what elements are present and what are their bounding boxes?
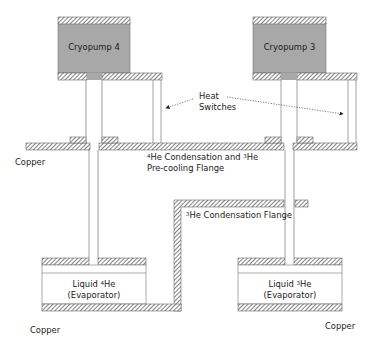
he3-evaporator-base: [238, 304, 342, 311]
seal-block: [70, 137, 86, 143]
upper-flange-label-line1: 4He Condensation and 3He: [147, 152, 258, 163]
seal-block: [102, 137, 118, 143]
heat-switches-label-line2: Switches: [199, 102, 236, 113]
upper-flange-left-segment: [26, 143, 90, 150]
pump-4-tube: [86, 80, 102, 258]
cryopump-4-bottom-flange-left: [58, 73, 87, 80]
he3-condensation-flange-label: 3He Condensation Flange: [186, 210, 292, 221]
copper-label-lower-right: Copper: [325, 321, 355, 332]
cryopump-3-top-flange: [253, 17, 326, 24]
pointer-to-heat-switch-3: [227, 97, 343, 114]
cryopump-4-bottom-flange-right: [102, 73, 162, 80]
heat-switch-pointers: [166, 97, 343, 114]
he4-evaporator-label-line2: (Evaporator): [42, 290, 146, 301]
he3-evaporator-label-line2: (Evaporator): [238, 290, 342, 301]
cryopump-4-top-flange: [58, 17, 130, 24]
cryopump-4-label: Cryopump 4: [58, 42, 130, 53]
copper-label-lower-left: Copper: [30, 325, 60, 336]
cryopump-3-neck: [281, 73, 297, 80]
he4-evaporator-top-right: [98, 258, 146, 265]
he4-evaporator-base: [42, 304, 181, 311]
heat-switches-label-line1: Heat: [199, 91, 236, 102]
upper-flange-main-segment: [99, 143, 284, 150]
he4-evaporator-label: Liquid 4He (Evaporator): [42, 279, 146, 301]
upper-flange: [26, 137, 357, 150]
he3-evaporator-label: Liquid 3He (Evaporator): [238, 279, 342, 301]
upper-flange-right-segment: [293, 143, 357, 150]
he3-evaporator-top-right: [294, 258, 342, 265]
upper-flange-label-line2: Pre-cooling Flange: [147, 163, 258, 174]
cryopump-3-bottom-flange-left: [253, 73, 281, 80]
cryopump-3-label: Cryopump 3: [253, 42, 326, 53]
upper-flange-label: 4He Condensation and 3He Pre-cooling Fla…: [147, 152, 258, 174]
seal-block: [297, 137, 313, 143]
he3-evaporator-label-line1: Liquid 3He: [238, 279, 342, 290]
heat-switch-4: [153, 80, 161, 143]
he4-evaporator-top-left: [42, 258, 89, 265]
he4-evaporator-label-line1: Liquid 4He: [42, 279, 146, 290]
heat-switches-label: Heat Switches: [199, 91, 236, 113]
pointer-to-heat-switch-4: [166, 99, 193, 108]
copper-label-upper-left: Copper: [15, 157, 45, 168]
he3-flange-right-stub: [295, 200, 308, 207]
cryopump-4-neck: [87, 73, 102, 80]
seal-block: [265, 137, 281, 143]
cryopump-3-bottom-flange-right: [297, 73, 357, 80]
heat-switch-3: [348, 80, 356, 143]
he3-evaporator-top-left: [238, 258, 285, 265]
